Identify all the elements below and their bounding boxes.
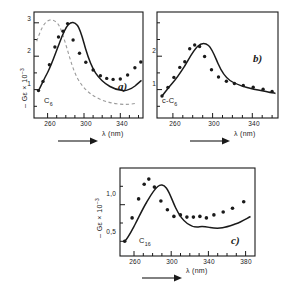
panel-a-y-ticks (34, 23, 39, 107)
panel-b-x-ticks (173, 113, 272, 118)
panel-c: – Gε × 10–3 0,5 1,0 (80, 160, 285, 298)
panel-a-y-axis-label: – Gε × 10–3 (20, 68, 28, 108)
panel-c-x-axis-arrow (140, 270, 230, 286)
panel-a-tag: a) (118, 80, 127, 92)
panel-b-x-axis-label: λ (nm) (234, 130, 256, 137)
panel-c-x-axis-label: λ (nm) (186, 267, 208, 274)
panel-c-data-points (123, 177, 246, 243)
panel-c-tag: c) (231, 234, 240, 246)
panel-c-series-label: C16 (139, 236, 151, 247)
panel-c-xtick-260: 260 (126, 258, 144, 265)
panel-a: – Gε × 10–3 3 2 1 (0, 0, 148, 150)
panel-c-xtick-340: 340 (200, 258, 218, 265)
panel-c-ytick-05: 0,5 (100, 228, 116, 235)
panel-a-ytick-3: 3 (19, 15, 31, 22)
panel-c-ytick-10: 1,0 (100, 190, 116, 197)
panel-b: 2 1 (148, 0, 285, 150)
panel-a-ytick-2: 2 (19, 47, 31, 54)
panel-b-xtick-340: 340 (245, 120, 263, 127)
panel-a-x-ticks (48, 113, 139, 118)
panel-a-xtick-260: 260 (41, 120, 59, 127)
panel-b-xtick-300: 300 (205, 120, 223, 127)
panel-b-xtick-260: 260 (166, 120, 184, 127)
panel-b-ytick-2: 2 (146, 47, 156, 54)
panel-c-xtick-300: 300 (163, 258, 181, 265)
panel-b-x-axis-arrow (188, 133, 278, 149)
panel-b-plot (148, 0, 285, 150)
panel-c-x-ticks (134, 251, 246, 256)
panel-c-solid-curve (125, 185, 251, 241)
panel-a-x-axis-arrow (56, 133, 146, 149)
panel-b-ytick-1: 1 (146, 80, 156, 87)
panel-b-series-label: c-C6 (162, 96, 177, 107)
panel-b-y-ticks (157, 23, 162, 107)
panel-c-xtick-380: 380 (237, 258, 255, 265)
panel-a-xtick-300: 300 (77, 120, 95, 127)
panel-c-y-ticks (120, 186, 125, 241)
panel-b-tag: b) (253, 52, 262, 64)
panel-a-series-label: C6 (44, 96, 53, 107)
figure-cd-spectra: – Gε × 10–3 3 2 1 (0, 0, 285, 298)
panel-a-xtick-340: 340 (113, 120, 131, 127)
panel-a-x-axis-label: λ (nm) (102, 130, 124, 137)
panel-a-ytick-1: 1 (19, 80, 31, 87)
